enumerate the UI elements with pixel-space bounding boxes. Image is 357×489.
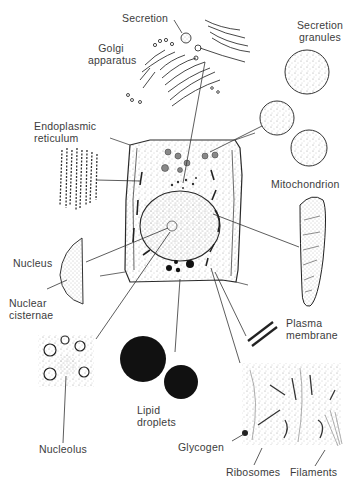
label-nucleus: Nucleus [13,257,52,269]
label-lipid-line2: droplets [137,416,176,428]
cell-body [100,133,255,285]
label-nuclear-cisternae-line2: cisternae [9,309,53,321]
lipid-droplets-illustration [120,336,198,399]
label-nuclear-cisternae: Nuclear cisternae [9,297,53,321]
secretion-granules-illustration [260,50,329,166]
label-lipid-line1: Lipid [137,404,176,416]
cell-nucleus [140,191,220,261]
label-golgi-apparatus: Golgi apparatus [88,42,134,66]
label-secretion-granules: Secretion granules [294,19,346,43]
label-lipid-droplets: Lipid droplets [137,404,176,428]
golgi-apparatus-illustration [127,20,251,106]
cell-diagram [0,0,357,489]
label-ribosomes: Ribosomes [226,466,280,478]
label-secretion-granules-line1: Secretion [294,19,346,31]
label-glycogen: Glycogen [178,441,224,453]
cytoplasm-illustration [242,363,342,446]
label-filaments: Filaments [290,466,337,478]
label-plasma-membrane: Plasma membrane [286,317,338,341]
label-er-line2: reticulum [34,132,96,144]
label-er-line1: Endoplasmic [34,120,96,132]
label-secretion: Secretion [122,12,168,24]
label-plasma-membrane-line1: Plasma [286,317,338,329]
label-secretion-granules-line2: granules [294,31,346,43]
label-golgi-line1: Golgi [88,42,134,54]
endoplasmic-reticulum-illustration [60,148,97,210]
plasma-membrane-illustration [248,322,277,346]
label-mitochondrion: Mitochondrion [271,178,340,190]
mitochondrion-illustration [300,197,326,306]
label-plasma-membrane-line2: membrane [286,329,338,341]
nucleus-section-illustration [60,238,83,304]
label-nuclear-cisternae-line1: Nuclear [9,297,53,309]
label-nucleolus: Nucleolus [39,443,87,455]
label-endoplasmic-reticulum: Endoplasmic reticulum [34,120,96,144]
label-golgi-line2: apparatus [88,54,134,66]
